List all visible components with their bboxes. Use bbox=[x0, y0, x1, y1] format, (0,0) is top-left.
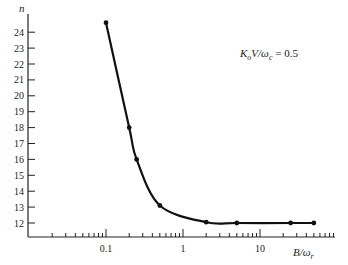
y-tick-label: 24 bbox=[14, 27, 24, 38]
data-point bbox=[288, 221, 293, 226]
data-point bbox=[157, 203, 162, 208]
x-tick-label: 1 bbox=[181, 243, 186, 254]
y-tick-label: 20 bbox=[14, 90, 24, 101]
y-tick-label: 19 bbox=[14, 106, 24, 117]
data-point bbox=[311, 221, 316, 226]
chart: 12131415161718192021222324 0.1110 n B/ωr… bbox=[0, 0, 348, 265]
y-tick-label: 15 bbox=[14, 170, 24, 181]
y-tick-label: 12 bbox=[14, 218, 24, 229]
data-point bbox=[234, 221, 239, 226]
data-point bbox=[134, 157, 139, 162]
x-axis-label: B/ωr bbox=[293, 246, 315, 261]
y-tick-label: 23 bbox=[14, 43, 24, 54]
y-tick-label: 13 bbox=[14, 202, 24, 213]
y-tick-label: 18 bbox=[14, 122, 24, 133]
y-tick-label: 17 bbox=[14, 138, 24, 149]
parameter-annotation: KoV/ωc = 0.5 bbox=[239, 47, 298, 62]
x-tick-label: 0.1 bbox=[100, 243, 113, 254]
data-point bbox=[127, 125, 132, 130]
data-point bbox=[204, 220, 209, 225]
data-point bbox=[104, 20, 109, 25]
x-axis: 0.1110 bbox=[28, 229, 335, 254]
y-tick-label: 22 bbox=[14, 59, 24, 70]
y-tick-label: 21 bbox=[14, 74, 24, 85]
y-tick-label: 16 bbox=[14, 154, 24, 165]
x-tick-label: 10 bbox=[255, 243, 265, 254]
y-tick-label: 14 bbox=[14, 186, 24, 197]
y-axis: 12131415161718192021222324 bbox=[14, 14, 35, 237]
y-axis-label: n bbox=[19, 2, 25, 14]
